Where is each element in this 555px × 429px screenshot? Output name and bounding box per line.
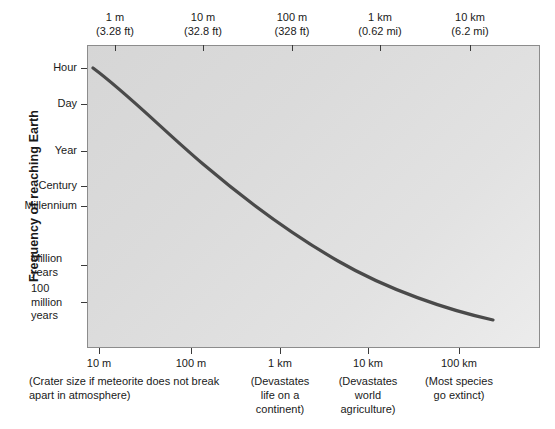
tick-bottom-100m [191,348,192,354]
crater-size-caption: (Crater size if meteorite does not break… [29,374,219,402]
y-label-million-years-line2: years [31,266,62,280]
tick-top-10m [203,45,204,51]
y-label-100-million-years-line3: years [31,309,62,323]
tick-bottom-100km [459,348,460,354]
top-label-1m: 1 m (3.28 ft) [96,11,134,38]
annotation-1km-line3: continent) [251,402,310,416]
annotation-100km-line2: go extinct) [425,388,493,402]
y-label-year: Year [55,144,77,158]
annotation-10km-line3: agriculture) [339,402,398,416]
tick-left-day [81,104,87,105]
tick-bottom-10m [99,348,100,354]
annotation-1km-line1: (Devastates [251,374,310,388]
top-label-10km-secondary: (6.2 mi) [451,25,488,39]
tick-left-100-million-years [81,302,87,303]
tick-left-million-years [81,265,87,266]
annotation-10km-line2: world [339,388,398,402]
bottom-label-10km: 10 km [353,357,383,370]
top-label-10km: 10 km (6.2 mi) [451,11,488,38]
impact-frequency-curve [93,68,493,320]
top-label-10km-primary: 10 km [451,11,488,25]
top-label-1km-secondary: (0.62 mi) [358,25,401,39]
top-label-100m-primary: 100 m [275,11,310,25]
y-label-hour: Hour [53,61,77,75]
tick-left-hour [81,68,87,69]
top-label-10m-primary: 10 m [184,11,222,25]
data-curve-svg [88,46,541,349]
y-label-100-million-years: 100 million years [31,282,62,323]
y-label-million-years: Million years [31,252,62,279]
tick-left-year [81,151,87,152]
y-label-100-million-years-line1: 100 [31,282,62,296]
top-label-1m-primary: 1 m [96,11,134,25]
annotation-100km-line1: (Most species [425,374,493,388]
y-label-100-million-years-line2: million [31,296,62,310]
top-label-100m-secondary: (328 ft) [275,25,310,39]
top-label-1km: 1 km (0.62 mi) [358,11,401,38]
bottom-label-100m: 100 m [176,357,207,370]
tick-top-100m [292,45,293,51]
plot-area [87,45,540,348]
top-label-10m: 10 m (32.8 ft) [184,11,222,38]
annotation-10km: (Devastates world agriculture) [339,374,398,416]
y-label-million-years-line1: Million [31,252,62,266]
crater-size-caption-line2: apart in atmosphere) [29,388,219,402]
top-label-10m-secondary: (32.8 ft) [184,25,222,39]
impact-frequency-chart: Frequency of reaching Earth 1 m (3.28 ft… [0,0,555,429]
annotation-1km-line2: life on a [251,388,310,402]
annotation-1km: (Devastates life on a continent) [251,374,310,416]
bottom-label-100km: 100 km [441,357,477,370]
top-label-100m: 100 m (328 ft) [275,11,310,38]
y-label-day: Day [57,97,77,111]
tick-top-1km [380,45,381,51]
bottom-label-10m: 10 m [87,357,111,370]
y-label-millennium: Millennium [24,199,77,213]
tick-left-century [81,186,87,187]
crater-size-caption-line1: (Crater size if meteorite does not break [29,374,219,388]
annotation-10km-line1: (Devastates [339,374,398,388]
tick-bottom-1km [280,348,281,354]
top-label-1m-secondary: (3.28 ft) [96,25,134,39]
bottom-label-1km: 1 km [268,357,292,370]
tick-top-10km [470,45,471,51]
y-label-century: Century [38,179,77,193]
annotation-100km: (Most species go extinct) [425,374,493,402]
tick-left-millennium [81,206,87,207]
top-label-1km-primary: 1 km [358,11,401,25]
tick-top-1m [115,45,116,51]
tick-bottom-10km [368,348,369,354]
